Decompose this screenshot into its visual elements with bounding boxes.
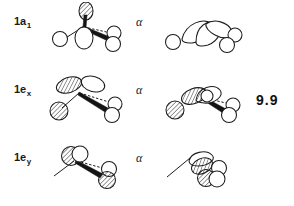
orbital-label-base: 1e bbox=[14, 151, 26, 163]
bond-wedge-right bbox=[78, 92, 108, 112]
lobe-open-right bbox=[79, 73, 106, 94]
energy-value: 9.9 bbox=[256, 93, 278, 107]
lobe-open-right-lower bbox=[220, 38, 235, 53]
orbital-label-1ex: 1ex bbox=[14, 84, 31, 98]
orbital-label-base: 1a bbox=[14, 15, 26, 27]
orbital-1ey-alpha-left bbox=[46, 138, 132, 198]
lobe-open-apex bbox=[201, 90, 213, 102]
lobe-hatched-lower-left bbox=[166, 101, 184, 119]
orbital-label-1a1: 1a1 bbox=[14, 16, 31, 30]
lobe-open-top bbox=[72, 146, 88, 162]
lobe-open-right-lower bbox=[105, 108, 120, 123]
orbital-1ey-alpha-right bbox=[162, 138, 252, 198]
spin-symbol-1ey: α bbox=[136, 152, 142, 164]
spin-symbol-1a1: α bbox=[136, 16, 142, 28]
lobe-hatched-lower-left bbox=[50, 102, 68, 120]
lobe-open-right-lower bbox=[106, 37, 121, 52]
molecular-orbital-figure: 1a1 α bbox=[0, 0, 294, 206]
lobe-open-center bbox=[75, 27, 93, 49]
lobe-hatched-top bbox=[79, 2, 93, 20]
orbital-row-1a1: 1a1 α bbox=[0, 2, 294, 66]
orbital-1a1-alpha-left bbox=[46, 2, 132, 62]
bond-line-tail bbox=[167, 158, 190, 177]
orbital-label-subscript: 1 bbox=[26, 21, 31, 30]
lobe-open-left bbox=[53, 32, 68, 47]
lobe-open-right-lower bbox=[209, 171, 225, 187]
lobe-open-right-lower bbox=[222, 108, 237, 123]
orbital-label-1ey: 1ey bbox=[14, 152, 31, 166]
orbital-1a1-alpha-right bbox=[162, 2, 252, 62]
lobe-open-far-left bbox=[166, 35, 181, 50]
orbital-label-subscript: y bbox=[26, 157, 31, 166]
orbital-row-1ex: 1ex α bbox=[0, 70, 294, 134]
spin-symbol-1ex: α bbox=[136, 84, 142, 96]
orbital-label-subscript: x bbox=[26, 89, 31, 98]
lobe-hatched-right-lower bbox=[99, 172, 116, 189]
orbital-1ex-alpha-right bbox=[162, 70, 252, 130]
orbital-1ex-alpha-left bbox=[46, 70, 132, 130]
bond-wedge-right bbox=[75, 160, 103, 178]
orbital-row-1ey: 1ey α bbox=[0, 138, 294, 202]
orbital-label-base: 1e bbox=[14, 83, 26, 95]
